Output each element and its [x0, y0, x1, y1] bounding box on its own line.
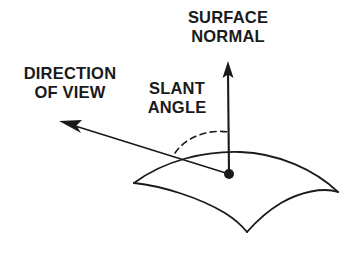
surface-front-right-edge [247, 190, 338, 232]
surface-normal-label-line1: SURFACE [170, 8, 286, 27]
slant-angle-label: SLANT ANGLE [136, 79, 218, 117]
surface-front-left-edge [134, 183, 247, 232]
direction-of-view-label-line2: OF VIEW [8, 83, 132, 102]
saddle-surface [134, 152, 338, 232]
slant-angle-label-line2: ANGLE [136, 98, 218, 117]
slant-angle-arc [175, 131, 228, 153]
surface-normal-label: SURFACE NORMAL [170, 8, 286, 46]
surface-normal-arrow [223, 61, 234, 174]
normal-arrow-shaft [228, 72, 229, 174]
direction-of-view-arrow [59, 120, 229, 174]
surface-normal-diagram: SURFACE NORMAL DIRECTION OF VIEW SLANT A… [0, 0, 364, 255]
slant-angle-label-line1: SLANT [136, 79, 218, 98]
direction-of-view-label: DIRECTION OF VIEW [8, 64, 132, 102]
direction-of-view-label-line1: DIRECTION [8, 64, 132, 83]
surface-point-dot [224, 169, 234, 179]
surface-normal-label-line2: NORMAL [170, 27, 286, 46]
surface-ridge-curve [134, 152, 338, 192]
